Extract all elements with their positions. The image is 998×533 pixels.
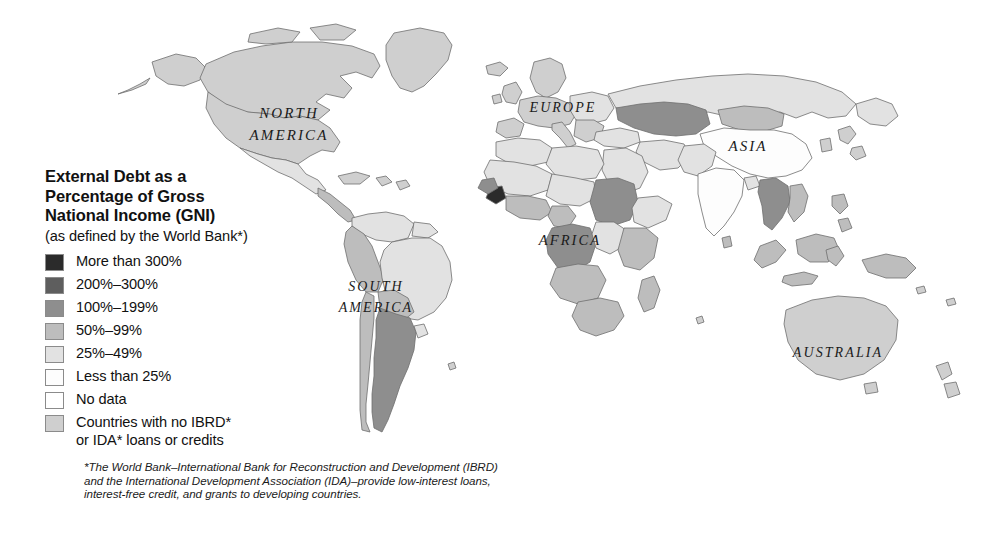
continent-label-south-america-2: AMERICA (338, 300, 414, 315)
legend-swatch-25-49 (45, 346, 64, 363)
legend-item-4: 25%–49% (45, 344, 345, 367)
region-sri-lanka (722, 236, 732, 248)
legend-swatch-200-300 (45, 277, 64, 294)
continent-label-africa: AFRICA (538, 232, 602, 248)
legend-label-no-ibrd-ida: Countries with no IBRD* or IDA* loans or… (76, 413, 231, 449)
legend-label-no-data: No data (76, 390, 126, 408)
legend-item-0: More than 300% (45, 252, 345, 275)
world-map-infographic: .ld { stroke:#6e6e6e; stroke-width:0.8; … (0, 0, 998, 533)
continent-label-australia: AUSTRALIA (792, 345, 883, 360)
legend-label-more-than-300: More than 300% (76, 252, 182, 270)
continent-label-south-america: SOUTH (348, 279, 404, 294)
legend-swatch-more-than-300 (45, 254, 64, 271)
region-korea (820, 138, 832, 152)
legend-label-100-199: 100%–199% (76, 298, 158, 316)
legend-label-less-than-25: Less than 25% (76, 367, 171, 385)
legend-label-25-49: 25%–49% (76, 344, 142, 362)
continent-label-north-america-2: AMERICA (249, 127, 329, 143)
legend-item-7: Countries with no IBRD* or IDA* loans or… (45, 413, 345, 449)
legend-item-2: 100%–199% (45, 298, 345, 321)
legend-items-list: More than 300% 200%–300% 100%–199% 50%–9… (45, 252, 345, 449)
legend-swatch-100-199 (45, 300, 64, 317)
legend-swatch-no-ibrd-ida (45, 415, 64, 432)
continent-label-europe: EUROPE (528, 100, 596, 115)
continent-label-asia: ASIA (727, 138, 767, 154)
legend-item-3: 50%–99% (45, 321, 345, 344)
legend-title: External Debt as a Percentage of Gross N… (45, 167, 345, 226)
region-tasmania (864, 382, 878, 394)
legend-swatch-no-data (45, 392, 64, 409)
legend-label-200-300: 200%–300% (76, 275, 158, 293)
legend-item-5: Less than 25% (45, 367, 345, 390)
footnote-text: *The World Bank–International Bank for R… (84, 460, 554, 501)
legend-swatch-less-than-25 (45, 369, 64, 386)
legend-subtitle: (as defined by the World Bank*) (45, 227, 345, 246)
legend-label-50-99: 50%–99% (76, 321, 142, 339)
legend-item-1: 200%–300% (45, 275, 345, 298)
legend-panel: External Debt as a Percentage of Gross N… (45, 167, 345, 449)
continent-label-north-america: NORTH (258, 105, 319, 121)
legend-item-6: No data (45, 390, 345, 413)
legend-swatch-50-99 (45, 323, 64, 340)
region-sudan (590, 178, 638, 226)
